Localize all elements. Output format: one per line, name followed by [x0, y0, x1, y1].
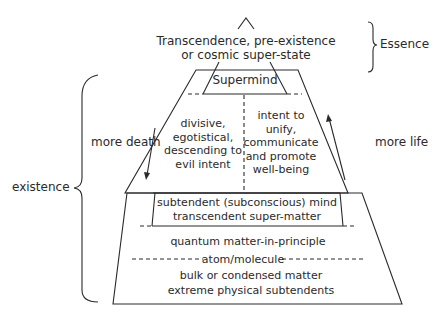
transcendence-line1: Transcendence, pre-existence: [156, 34, 335, 48]
existence-label: existence: [12, 181, 70, 194]
essence-brace: [368, 22, 377, 72]
subtendent-text: subtendent (subconscious) mind transcend…: [157, 196, 337, 224]
arrow-up-head: [326, 114, 332, 122]
left-column-text: divisive, egotistical, descending to evi…: [164, 117, 242, 171]
transcendence-line2: or cosmic super-state: [156, 48, 335, 62]
right-column-text: intent to unify, communicate and promote…: [243, 109, 318, 177]
subtendent-line2: transcendent super-matter: [157, 210, 337, 224]
right-line3: communicate: [243, 136, 318, 150]
left-line3: descending to: [164, 144, 242, 158]
existence-brace: [74, 75, 98, 302]
right-line4: and promote: [243, 150, 318, 164]
transcendence-label: Transcendence, pre-existence or cosmic s…: [156, 34, 335, 62]
arrow-down-head: [144, 172, 150, 180]
bulk-line2: extreme physical subtendents: [168, 283, 335, 298]
right-line5: well-being: [243, 163, 318, 177]
supermind-label: Supermind: [212, 74, 277, 87]
right-line2: unify,: [243, 123, 318, 137]
more-death-label: more death: [91, 136, 161, 149]
more-life-label: more life: [375, 136, 428, 149]
subtendent-line1: subtendent (subconscious) mind: [157, 196, 337, 210]
left-line4: evil intent: [164, 158, 242, 172]
apex-caret: [238, 18, 254, 29]
atom-label: atom/molecule: [202, 253, 284, 266]
quantum-label: quantum matter-in-principle: [170, 235, 325, 248]
left-line1: divisive,: [164, 117, 242, 131]
bulk-text: bulk or condensed matter extreme physica…: [168, 268, 335, 298]
essence-label: Essence: [380, 38, 429, 51]
right-line1: intent to: [243, 109, 318, 123]
bulk-line1: bulk or condensed matter: [168, 268, 335, 283]
left-line2: egotistical,: [164, 131, 242, 145]
